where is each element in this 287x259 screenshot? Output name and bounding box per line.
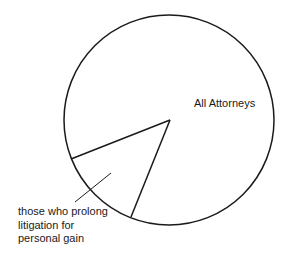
label-slice-line-2: litigation for — [18, 219, 108, 233]
label-slice-line-3: personal gain — [18, 232, 108, 246]
label-slice-line-1: those who prolong — [18, 205, 108, 219]
label-all-attorneys: All Attorneys — [194, 97, 255, 111]
label-slice: those who prolong litigation for persona… — [18, 205, 108, 246]
